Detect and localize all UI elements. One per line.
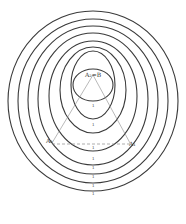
tick-8: 1: [92, 191, 95, 196]
ring-6: [28, 26, 158, 174]
label-apex: A₂=B: [84, 71, 102, 78]
tick-4: 1: [92, 156, 95, 161]
tick-2: 1: [92, 122, 95, 127]
tick-7: 1: [92, 183, 95, 188]
contour-diagram: 1 1 1 1 1 1 1 1 A₂=B A₂ A₁: [0, 0, 186, 224]
label-a1: A₁: [128, 140, 136, 147]
tick-5: 1: [92, 165, 95, 170]
tick-3: 1: [92, 145, 95, 150]
contour-rings: [8, 11, 178, 191]
axis-ticks: 1 1 1 1 1 1 1 1: [92, 103, 95, 196]
tick-1: 1: [92, 103, 95, 108]
ring-4: [49, 41, 137, 151]
tick-6: 1: [92, 174, 95, 179]
ring-2: [71, 51, 115, 119]
label-a2: A₂: [45, 137, 53, 144]
ring-3: [60, 47, 126, 133]
